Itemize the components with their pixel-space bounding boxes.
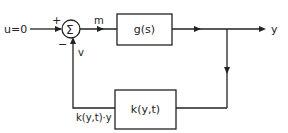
minus-sign: −	[58, 38, 67, 51]
output-mid-arrow-icon	[194, 26, 201, 32]
branch-arrow-icon	[224, 67, 230, 74]
feedback-signal-label: k(y,t)·y	[76, 112, 112, 123]
signal-m-label: m	[94, 15, 104, 26]
sigma-icon: Σ	[66, 23, 74, 37]
plus-sign: +	[52, 14, 61, 27]
output-label: y	[271, 23, 278, 36]
feedback-block-label: k(y,t)	[131, 103, 160, 116]
signal-v-label: v	[78, 47, 84, 58]
output-arrow-icon	[259, 26, 266, 32]
block-diagram: u=0 + Σ − m g(s) y k(y,t) v k(y,t)·y	[0, 0, 288, 133]
input-label: u=0	[4, 23, 27, 36]
m-arrow-icon	[97, 26, 104, 32]
forward-block-label: g(s)	[134, 23, 155, 36]
